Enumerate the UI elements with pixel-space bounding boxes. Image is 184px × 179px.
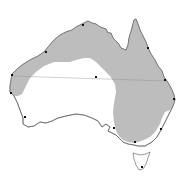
city-dot-rockhampton: [164, 79, 166, 81]
city-dot-carnarvon: [11, 74, 13, 76]
city-dot-adelaide: [113, 127, 115, 129]
city-dot-melbourne: [134, 141, 136, 143]
city-dot-sydney: [160, 128, 162, 130]
city-dot-hobart: [141, 166, 143, 168]
australia-map: [0, 0, 184, 179]
city-dot-perth: [24, 116, 26, 118]
city-dot-alice-springs: [95, 76, 97, 78]
city-dot-geraldton: [10, 92, 12, 94]
city-dot-broome: [45, 51, 47, 53]
city-dot-brisbane: [173, 98, 175, 100]
city-dot-darwin: [82, 24, 84, 26]
city-dot-cairns: [147, 47, 149, 49]
